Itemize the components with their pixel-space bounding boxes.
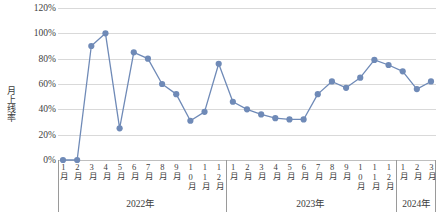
- y-axis-tick: 60%: [39, 79, 56, 89]
- plot-area: [58, 8, 436, 160]
- data-point[interactable]: [414, 86, 420, 92]
- series-layer: [58, 8, 436, 160]
- data-point[interactable]: [102, 30, 108, 36]
- data-point[interactable]: [428, 78, 434, 84]
- data-point[interactable]: [187, 118, 193, 124]
- data-point[interactable]: [286, 116, 292, 122]
- data-point[interactable]: [371, 57, 377, 63]
- group-separator: [226, 160, 227, 212]
- data-point[interactable]: [201, 109, 207, 115]
- data-point[interactable]: [329, 78, 335, 84]
- data-point[interactable]: [272, 115, 278, 121]
- data-point[interactable]: [230, 99, 236, 105]
- y-axis-tick-labels: 120%100%80%60%40%20%0%: [18, 0, 58, 170]
- y-axis-tick: 40%: [39, 104, 56, 114]
- data-point[interactable]: [117, 125, 123, 131]
- data-point[interactable]: [244, 106, 250, 112]
- series-line: [63, 33, 431, 160]
- data-point[interactable]: [131, 49, 137, 55]
- group-separator: [396, 160, 397, 212]
- data-point[interactable]: [385, 62, 391, 68]
- x-axis-group-label: 2023年: [296, 196, 325, 210]
- y-axis-tick: 80%: [39, 54, 56, 64]
- data-point[interactable]: [216, 61, 222, 67]
- y-axis-tick: 100%: [34, 28, 56, 38]
- x-axis-group-label: 2022年: [126, 196, 155, 210]
- data-point[interactable]: [258, 111, 264, 117]
- y-axis-tick: 0%: [43, 155, 56, 165]
- data-point[interactable]: [343, 85, 349, 91]
- data-point[interactable]: [301, 116, 307, 122]
- data-point[interactable]: [400, 68, 406, 74]
- y-axis-tick: 20%: [39, 130, 56, 140]
- y-axis-tick: 120%: [34, 3, 56, 13]
- line-chart: 月上线率 120%100%80%60%40%20%0% 1月2月3月4月5月6月…: [0, 0, 440, 216]
- data-point[interactable]: [88, 43, 94, 49]
- data-point[interactable]: [145, 56, 151, 62]
- data-point[interactable]: [357, 75, 363, 81]
- data-point[interactable]: [315, 91, 321, 97]
- data-point[interactable]: [159, 81, 165, 87]
- x-axis-group-labels: 2022年2023年2024年: [58, 160, 436, 212]
- data-point[interactable]: [173, 91, 179, 97]
- x-axis-group-label: 2024年: [402, 196, 431, 210]
